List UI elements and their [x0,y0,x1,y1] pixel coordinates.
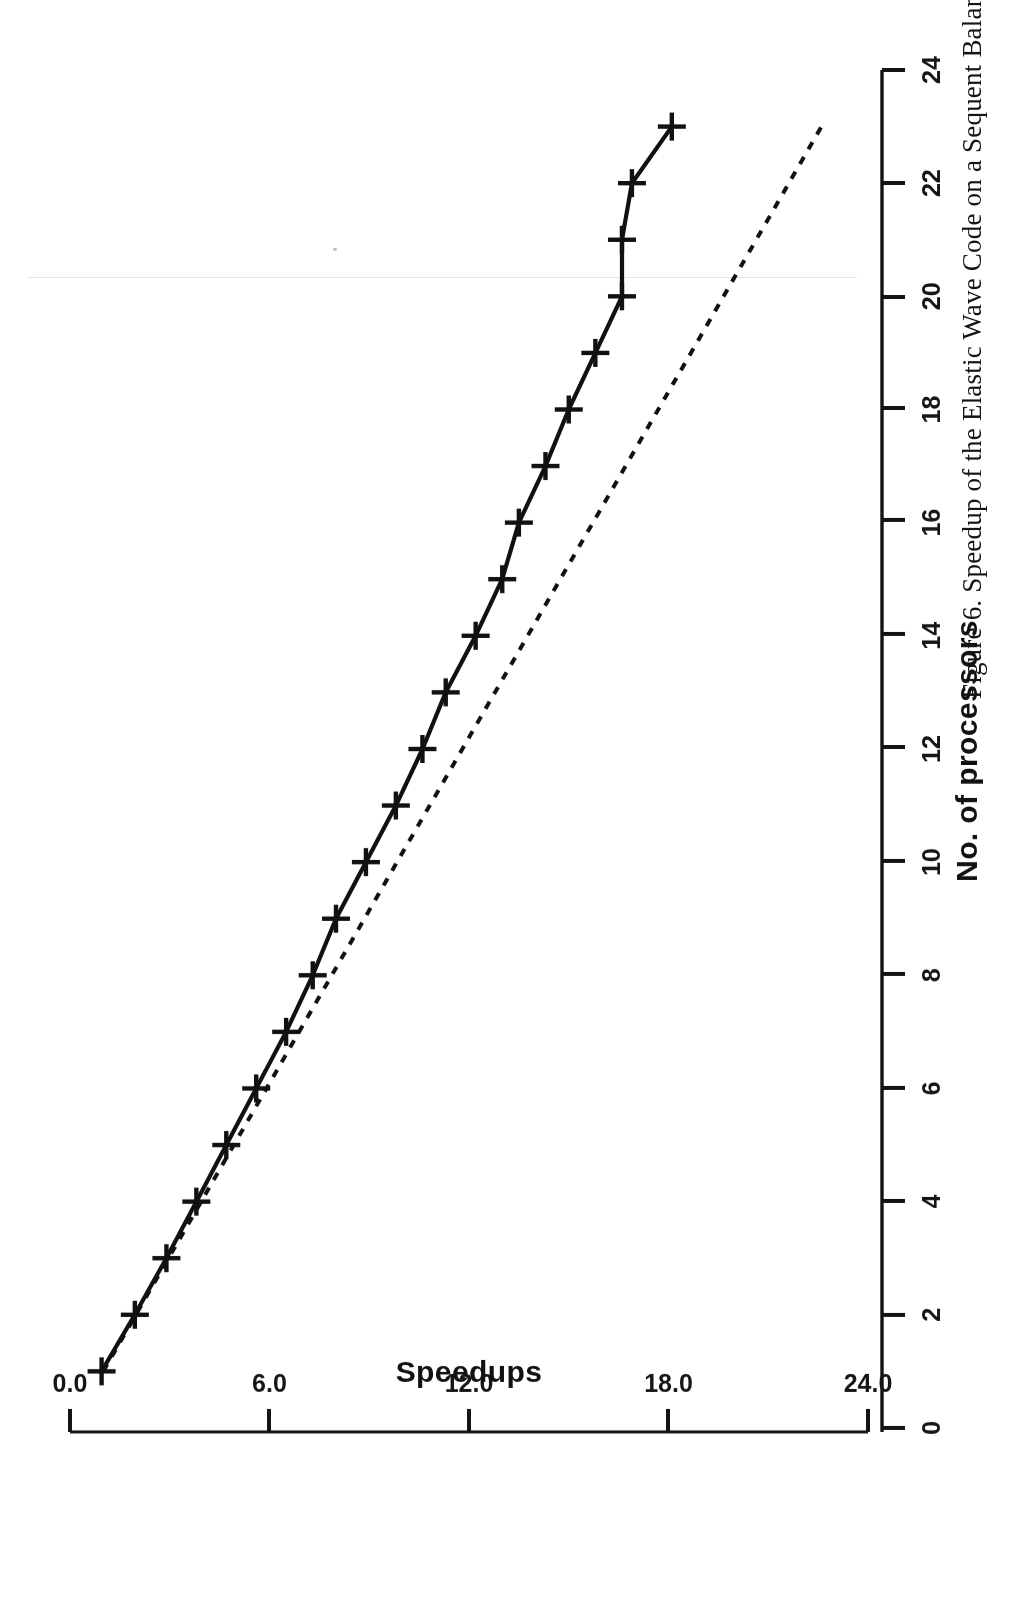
processors-tick-label: 16 [917,509,945,537]
processors-tick-label: 18 [917,396,945,424]
processors-tick-label: 6 [917,1082,945,1096]
processors-tick-label: 4 [917,1195,945,1209]
speedups-axis [70,1409,868,1432]
processors-tick-label: 20 [917,282,945,310]
data-point-markers [88,113,686,1386]
plot-area: 0.06.012.018.024.0 024681012141618202224… [0,0,1027,1599]
measured-speedup-line [102,127,672,1372]
speedup-chart-svg: 0.06.012.018.024.0 024681012141618202224… [0,0,1027,1599]
scanned-figure-page: 0.06.012.018.024.0 024681012141618202224… [0,0,1027,1599]
scan-artifact-line [27,277,857,278]
speedups-tick-label: 6.0 [252,1369,287,1397]
processors-tick-label: 22 [917,169,945,197]
processors-tick-label: 12 [917,735,945,763]
processors-tick-label: 24 [917,56,945,84]
figure-caption: Figure 6. Speedup of the Elastic Wave Co… [957,0,988,699]
speedups-axis-title: Speedups [396,1355,543,1388]
ideal-speedup-line [103,127,821,1372]
processors-tick-label: 14 [917,622,945,650]
processors-axis [882,70,905,1432]
processors-tick-label: 8 [917,968,945,982]
speedups-tick-label: 0.0 [53,1369,88,1397]
processors-tick-label: 0 [917,1421,945,1435]
processors-tick-label: 10 [917,848,945,876]
processors-tick-label: 2 [917,1308,945,1322]
scan-speck [333,248,337,251]
speedups-tick-label: 24.0 [844,1369,893,1397]
speedups-tick-label: 18.0 [644,1369,693,1397]
processors-tick-labels: 024681012141618202224 [917,56,945,1435]
